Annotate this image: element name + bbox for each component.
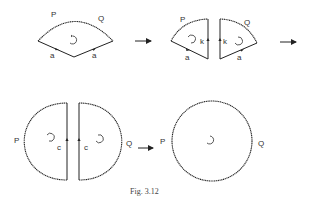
label-P: P [180, 15, 185, 24]
label-P: P [51, 10, 56, 19]
rotation-icon [235, 37, 242, 45]
rotation-icon [188, 35, 195, 43]
sector-arc [38, 22, 113, 42]
label-a-right: a [92, 51, 97, 60]
label-k-left: k [200, 37, 205, 46]
label-P: P [160, 137, 165, 146]
figure-3-12: P Q a a P k a Q k a P c [0, 0, 316, 208]
cut-arrow-icon [218, 38, 221, 41]
rotation-icon [47, 133, 54, 141]
label-Q: Q [98, 14, 104, 23]
label-Q: Q [244, 18, 250, 27]
label-a-left: a [50, 51, 55, 60]
label-Q: Q [258, 139, 264, 148]
panel-sector: P Q a a [38, 10, 113, 60]
label-P: P [14, 136, 19, 145]
figure-caption: Fig. 3.12 [130, 187, 159, 196]
rotation-icon [96, 135, 103, 143]
panel-disc: P Q [160, 101, 264, 181]
label-c-right: c [84, 143, 88, 152]
label-a-left: a [185, 53, 190, 62]
right-half-arc [79, 103, 122, 180]
label-c-left: c [57, 143, 61, 152]
left-half-arc [24, 103, 67, 180]
rotation-icon [70, 36, 77, 44]
cut-arrow-icon [77, 138, 80, 141]
cut-arrow-icon [206, 38, 209, 41]
panel-half-discs: P c Q c [14, 103, 132, 180]
cut-arrow-icon [65, 138, 68, 141]
disc-boundary [172, 101, 252, 181]
label-a-right: a [237, 53, 242, 62]
rotation-icon [207, 136, 214, 144]
panel-split-sectors: P k a Q k a [171, 15, 257, 62]
rotation-arrow-icon [71, 35, 73, 37]
label-Q: Q [126, 139, 132, 148]
label-k-right: k [223, 37, 228, 46]
